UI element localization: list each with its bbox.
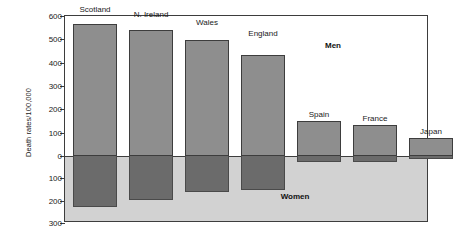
bar-women-wales bbox=[185, 156, 229, 192]
bar-label-n-ireland: N. Ireland bbox=[134, 10, 169, 19]
bar-group-france: France bbox=[353, 16, 397, 221]
bar-label-japan: Japan bbox=[420, 127, 442, 136]
y-axis-title: Death rates/100,000 bbox=[24, 43, 33, 203]
bar-women-spain bbox=[297, 156, 341, 162]
bar-label-wales: Wales bbox=[196, 18, 218, 27]
bar-label-england: England bbox=[248, 29, 277, 38]
bar-label-spain: Spain bbox=[309, 110, 329, 119]
tick-label-500: 500 bbox=[49, 35, 62, 44]
bar-label-scotland: Scotland bbox=[79, 5, 110, 14]
bar-men-wales bbox=[185, 40, 229, 156]
tick-label-400: 400 bbox=[49, 58, 62, 67]
bar-men-spain bbox=[297, 121, 341, 156]
bar-men-japan bbox=[409, 138, 453, 156]
tick-label-minus-300: 300 bbox=[49, 219, 62, 228]
tick-label-0: 0 bbox=[58, 152, 62, 161]
annotation-men: Men bbox=[325, 41, 341, 50]
tick-label-200: 200 bbox=[49, 105, 62, 114]
bar-group-n-ireland: N. Ireland bbox=[129, 16, 173, 221]
bar-women-scotland bbox=[73, 156, 117, 207]
bar-women-n-ireland bbox=[129, 156, 173, 200]
bar-group-japan: Japan bbox=[409, 16, 453, 221]
bar-women-france bbox=[353, 156, 397, 162]
plot-area: 600 500 400 300 200 100 bbox=[64, 15, 428, 222]
tick-label-600: 600 bbox=[49, 12, 62, 21]
tick-label-100: 100 bbox=[49, 128, 62, 137]
bar-men-n-ireland bbox=[129, 30, 173, 156]
bar-men-france bbox=[353, 125, 397, 156]
bar-men-scotland bbox=[73, 24, 117, 156]
bar-group-wales: Wales bbox=[185, 16, 229, 221]
bar-group-england: England bbox=[241, 16, 285, 221]
annotation-women: Women bbox=[281, 192, 310, 201]
bar-women-japan bbox=[409, 156, 453, 159]
tick-label-300: 300 bbox=[49, 82, 62, 91]
tick-label-minus-200: 200 bbox=[49, 196, 62, 205]
tick-label-minus-100: 100 bbox=[49, 174, 62, 183]
bar-group-scotland: Scotland bbox=[73, 16, 117, 221]
bar-women-england bbox=[241, 156, 285, 190]
bar-men-england bbox=[241, 55, 285, 156]
bar-label-france: France bbox=[363, 114, 388, 123]
